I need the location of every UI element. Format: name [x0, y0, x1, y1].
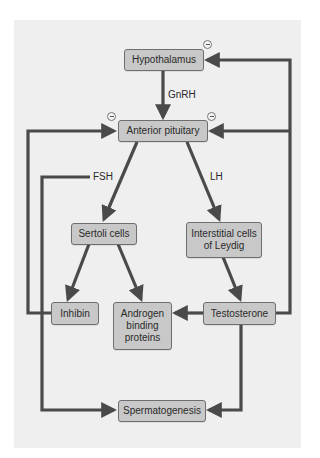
testosterone-hypothalamus-feedback — [207, 60, 290, 313]
node-testosterone: Testosterone — [203, 302, 276, 325]
node-hypothalamus: Hypothalamus — [124, 49, 204, 71]
negative-feedback-icon — [203, 40, 212, 49]
testosterone-spermatogenesis-arrow — [209, 324, 241, 410]
sertoli-abp-arrow — [118, 244, 141, 299]
label-lh: LH — [210, 171, 223, 182]
node-sertoli-cells: Sertoli cells — [71, 223, 137, 245]
sertoli-inhibin-arrow — [68, 244, 89, 299]
node-androgen-binding-proteins: Androgen binding proteins — [113, 302, 172, 350]
leydig-testosterone-arrow — [223, 257, 240, 299]
node-anterior-pituitary: Anterior pituitary — [118, 120, 208, 142]
label-fsh: FSH — [93, 171, 113, 182]
node-spermatogenesis: Spermatogenesis — [118, 400, 206, 422]
fsh-spermatogenesis-arrow — [42, 177, 114, 410]
negative-feedback-icon — [107, 112, 116, 121]
label-gnrh: GnRH — [168, 89, 196, 100]
negative-feedback-icon — [207, 112, 216, 121]
node-inhibin: Inhibin — [51, 302, 99, 325]
node-interstitial-cells: Interstitial cells of Leydig — [186, 222, 262, 258]
